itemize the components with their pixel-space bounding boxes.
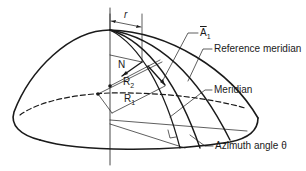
label-R2: R2 [123, 77, 134, 89]
label-azimuth-angle: Azimuth angle θ [215, 141, 287, 151]
R1-dim-line [112, 86, 165, 113]
shell-of-revolution-diagram: r A1 Reference meridian N R2 R1 Meridian… [0, 0, 306, 171]
dome-left-outline [13, 30, 110, 140]
label-reference-meridian: Reference meridian [214, 44, 301, 54]
label-N-main: N [118, 59, 125, 70]
label-R1-sub: 1 [131, 99, 135, 106]
label-R2-sub: 2 [130, 82, 134, 89]
center-point-R1 [96, 92, 100, 96]
label-R1: R1 [124, 94, 135, 106]
label-A1-sub: 1 [207, 33, 211, 40]
label-r: r [124, 10, 127, 20]
azimuth-ref-line [110, 120, 247, 131]
label-meridian: Meridian [214, 85, 252, 95]
radius-r-line [110, 55, 142, 62]
inner-meridian-line [110, 30, 180, 148]
r-dim-line [111, 21, 141, 27]
label-N: N [118, 60, 125, 70]
center-point-R2 [108, 84, 112, 88]
label-A1-main: A [200, 27, 207, 38]
label-A1: A1 [200, 28, 211, 40]
